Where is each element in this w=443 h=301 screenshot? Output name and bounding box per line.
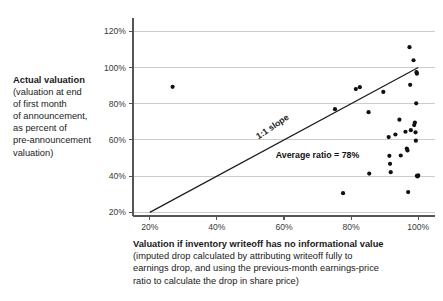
data-point [414, 139, 418, 143]
y-tick-label: 80% [109, 99, 127, 109]
data-point [341, 191, 345, 195]
data-point [171, 85, 175, 89]
data-point [403, 130, 407, 134]
x-tick-label: 80% [343, 222, 361, 232]
y-tick-label: 120% [104, 26, 126, 36]
data-point [333, 107, 337, 111]
chart-annotations: 1:1 slopeAverage ratio = 78% [254, 112, 359, 160]
data-point [413, 120, 417, 124]
data-point [366, 110, 370, 114]
data-point [393, 132, 397, 136]
data-point [397, 118, 401, 122]
x-axis-subtitle-line-3: ratio to calculate the drop in share pri… [133, 275, 439, 287]
x-axis-subtitle-line-2: earnings drop, and using the previous-mo… [133, 262, 439, 274]
x-axis-caption: Valuation if inventory writeoff has no i… [133, 238, 439, 287]
data-point [367, 172, 371, 176]
x-tick-labels: 20%40%60%80%100% [141, 222, 429, 232]
data-point [399, 153, 403, 157]
data-point [407, 45, 411, 49]
data-point [416, 173, 420, 177]
x-tick-label: 20% [141, 222, 159, 232]
y-tick-label: 20% [109, 207, 127, 217]
data-point [405, 148, 409, 152]
data-point [415, 72, 419, 76]
x-tick-label: 60% [275, 222, 293, 232]
data-point [411, 58, 415, 62]
y-tick-label: 60% [109, 135, 127, 145]
data-point [387, 154, 391, 158]
y-tick-labels: 20%40%60%80%100%120% [104, 26, 126, 217]
data-point [388, 162, 392, 166]
slope-label: 1:1 slope [254, 112, 291, 141]
data-point [409, 128, 413, 132]
data-point [389, 170, 393, 174]
x-axis-subtitle-line-1: (imputed drop calculated by attributing … [133, 250, 439, 262]
data-point [414, 101, 418, 105]
x-tick-label: 100% [407, 222, 429, 232]
x-tick-label: 40% [208, 222, 226, 232]
data-point [406, 190, 410, 194]
x-axis-title: Valuation if inventory writeoff has no i… [133, 238, 439, 250]
data-point [408, 83, 412, 87]
y-tick-label: 100% [104, 63, 126, 73]
data-point [354, 87, 358, 91]
data-point [387, 135, 391, 139]
data-point [413, 130, 417, 134]
data-point [358, 85, 362, 89]
scatter-plot-figure: Actual valuation (valuation at end of fi… [0, 0, 443, 301]
data-point [381, 90, 385, 94]
y-tick-label: 40% [109, 171, 127, 181]
average-ratio-label: Average ratio = 78% [276, 150, 360, 160]
